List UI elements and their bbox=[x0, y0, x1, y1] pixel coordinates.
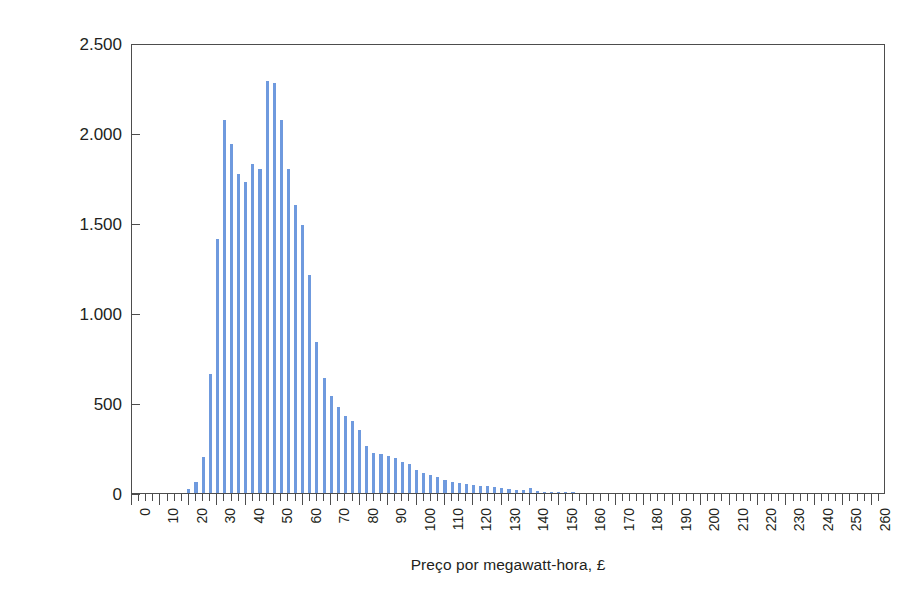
histogram-bar bbox=[251, 164, 254, 493]
y-axis-tick bbox=[131, 44, 140, 45]
x-axis-minor-tick bbox=[721, 494, 722, 501]
x-axis-major-tick bbox=[159, 494, 160, 505]
x-axis-minor-tick bbox=[657, 494, 658, 501]
histogram-bar bbox=[308, 275, 311, 493]
x-axis-minor-tick bbox=[686, 494, 687, 501]
x-axis-minor-tick bbox=[394, 494, 395, 501]
chart-figure: Número de períodos de meia hora Preço po… bbox=[0, 0, 924, 602]
histogram-bar bbox=[550, 492, 553, 493]
histogram-bar bbox=[429, 475, 432, 493]
x-axis-major-tick bbox=[501, 494, 502, 505]
histogram-bar bbox=[337, 407, 340, 493]
x-axis-tick-label: 10 bbox=[165, 508, 181, 524]
x-axis-major-tick bbox=[416, 494, 417, 505]
x-axis-minor-tick bbox=[223, 494, 224, 501]
x-axis-minor-tick bbox=[202, 494, 203, 501]
x-axis-tick-label: 170 bbox=[621, 508, 637, 531]
x-axis-minor-tick bbox=[408, 494, 409, 501]
y-axis-tick bbox=[131, 224, 140, 225]
x-axis-minor-tick bbox=[231, 494, 232, 501]
y-axis-tick bbox=[131, 134, 140, 135]
x-axis-minor-tick bbox=[622, 494, 623, 501]
x-axis-minor-tick bbox=[494, 494, 495, 501]
x-axis-tick-label: 0 bbox=[137, 508, 153, 516]
x-axis-tick-label: 190 bbox=[678, 508, 694, 531]
x-axis-major-tick bbox=[814, 494, 815, 505]
x-axis-major-tick bbox=[302, 494, 303, 505]
x-axis-minor-tick bbox=[480, 494, 481, 501]
x-axis-minor-tick bbox=[771, 494, 772, 501]
x-axis-minor-tick bbox=[380, 494, 381, 501]
x-axis-minor-tick bbox=[195, 494, 196, 501]
y-axis-tick-label: 1.500 bbox=[50, 216, 122, 233]
histogram-bar bbox=[330, 396, 333, 493]
y-axis-tick-label: 0 bbox=[50, 486, 122, 503]
x-axis-minor-tick bbox=[878, 494, 879, 501]
histogram-bar bbox=[493, 487, 496, 493]
x-axis-major-tick bbox=[700, 494, 701, 505]
x-axis-minor-tick bbox=[344, 494, 345, 501]
x-axis-tick-label: 230 bbox=[791, 508, 807, 531]
x-axis-minor-tick bbox=[138, 494, 139, 501]
x-axis-major-tick bbox=[529, 494, 530, 505]
histogram-bar bbox=[372, 453, 375, 493]
y-axis-title: Número de períodos de meia hora bbox=[0, 0, 40, 602]
histogram-bar bbox=[436, 477, 439, 493]
x-axis-tick-label: 160 bbox=[592, 508, 608, 531]
x-axis-minor-tick bbox=[266, 494, 267, 501]
x-axis-minor-tick bbox=[238, 494, 239, 501]
x-axis-minor-tick bbox=[800, 494, 801, 501]
histogram-bars bbox=[132, 45, 884, 493]
x-axis-minor-tick bbox=[544, 494, 545, 501]
histogram-bar bbox=[244, 182, 247, 493]
x-axis-minor-tick bbox=[430, 494, 431, 501]
histogram-bar bbox=[408, 464, 411, 493]
x-axis-minor-tick bbox=[650, 494, 651, 501]
x-axis-minor-tick bbox=[743, 494, 744, 501]
histogram-bar bbox=[401, 462, 404, 493]
histogram-bar bbox=[209, 374, 212, 493]
x-axis-tick-label: 250 bbox=[848, 508, 864, 531]
histogram-bar bbox=[387, 456, 390, 493]
histogram-bar bbox=[415, 470, 418, 493]
histogram-bar bbox=[379, 454, 382, 493]
histogram-bar bbox=[529, 488, 532, 493]
x-axis-minor-tick bbox=[707, 494, 708, 501]
x-axis-minor-tick bbox=[515, 494, 516, 501]
x-axis-minor-tick bbox=[835, 494, 836, 501]
histogram-bar bbox=[258, 169, 261, 493]
histogram-bar bbox=[422, 473, 425, 493]
x-axis-major-tick bbox=[472, 494, 473, 505]
x-axis-tick-label: 130 bbox=[507, 508, 523, 531]
x-axis-minor-tick bbox=[608, 494, 609, 501]
histogram-bar bbox=[301, 225, 304, 493]
histogram-bar bbox=[443, 480, 446, 494]
histogram-bar bbox=[280, 120, 283, 493]
histogram-bar bbox=[507, 489, 510, 493]
x-axis-major-tick bbox=[188, 494, 189, 505]
x-axis-minor-tick bbox=[736, 494, 737, 501]
x-axis-major-tick bbox=[444, 494, 445, 505]
y-axis-tick-label: 2.000 bbox=[50, 126, 122, 143]
x-axis-minor-tick bbox=[764, 494, 765, 501]
x-axis-minor-tick bbox=[366, 494, 367, 501]
x-axis-minor-tick bbox=[337, 494, 338, 501]
y-axis-tick bbox=[131, 314, 140, 315]
x-axis-minor-tick bbox=[437, 494, 438, 501]
histogram-bar bbox=[287, 169, 290, 493]
x-axis-tick-label: 90 bbox=[393, 508, 409, 524]
x-axis-minor-tick bbox=[793, 494, 794, 501]
x-axis-minor-tick bbox=[451, 494, 452, 501]
x-axis-minor-tick bbox=[807, 494, 808, 501]
x-axis-major-tick bbox=[359, 494, 360, 505]
x-axis-major-tick bbox=[216, 494, 217, 505]
x-axis-title: Preço por megawatt-hora, £ bbox=[131, 556, 885, 574]
x-axis-tick-label: 180 bbox=[649, 508, 665, 531]
x-axis-major-tick bbox=[558, 494, 559, 505]
histogram-bar bbox=[465, 484, 468, 493]
x-axis-tick-label: 220 bbox=[763, 508, 779, 531]
x-axis-tick-label: 110 bbox=[450, 508, 466, 530]
histogram-bar bbox=[223, 120, 226, 493]
x-axis-tick-label: 100 bbox=[422, 508, 438, 531]
x-axis-tick-label: 40 bbox=[251, 508, 267, 524]
